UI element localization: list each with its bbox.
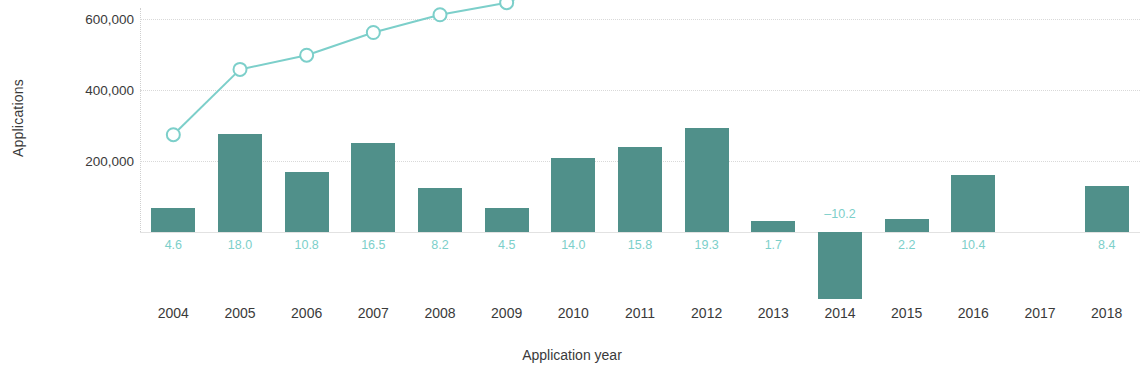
line-marker-2009[interactable] — [500, 0, 513, 9]
y-axis-tick-label: 400,000 — [85, 83, 134, 98]
plot-area: 200,000400,000600,000800,0001,000,0004.6… — [140, 0, 1140, 300]
x-axis-tick-2016: 2016 — [958, 305, 989, 321]
y-axis-tick-label: 600,000 — [85, 12, 134, 27]
x-axis-tick-2012: 2012 — [691, 305, 722, 321]
x-axis-tick-2004: 2004 — [158, 305, 189, 321]
x-axis-tick-2010: 2010 — [558, 305, 589, 321]
line-segment — [507, 0, 574, 3]
y-axis-tick-label: 200,000 — [85, 154, 134, 169]
x-axis-tick-2011: 2011 — [625, 305, 655, 321]
x-axis-tick-2015: 2015 — [891, 305, 922, 321]
x-axis-tick-2013: 2013 — [758, 305, 789, 321]
x-axis-tick-2006: 2006 — [291, 305, 322, 321]
x-axis-tick-2005: 2005 — [224, 305, 255, 321]
x-axis-tick-2014: 2014 — [824, 305, 855, 321]
x-axis-tick-2018: 2018 — [1091, 305, 1122, 321]
chart-root: Applications 200,000400,000600,000800,00… — [0, 0, 1144, 374]
line-segment — [173, 69, 240, 134]
x-axis-tick-2017: 2017 — [1024, 305, 1055, 321]
x-axis-tick-2009: 2009 — [491, 305, 522, 321]
line-marker-2007[interactable] — [367, 26, 380, 39]
line-segment — [307, 32, 374, 55]
x-axis-tick-2007: 2007 — [358, 305, 389, 321]
x-axis-title: Application year — [0, 347, 1144, 363]
line-marker-2004[interactable] — [167, 128, 180, 141]
line-segment — [373, 15, 440, 33]
line-series-layer — [140, 0, 1140, 300]
line-marker-2008[interactable] — [434, 8, 447, 21]
x-axis-tick-2008: 2008 — [424, 305, 455, 321]
line-marker-2005[interactable] — [234, 63, 247, 76]
line-segment — [440, 3, 507, 15]
y-axis-title: Applications — [10, 58, 26, 178]
line-segment — [240, 55, 307, 69]
line-marker-2006[interactable] — [300, 49, 313, 62]
